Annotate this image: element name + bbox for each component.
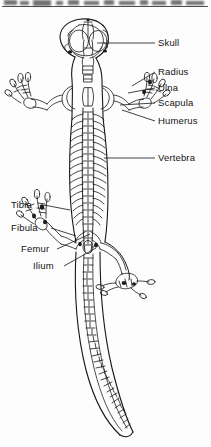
label-tibia: Tibia <box>11 200 32 210</box>
leader-scapula <box>120 103 155 105</box>
label-skull: Skull <box>158 38 179 48</box>
leader-femur <box>57 234 90 249</box>
leader-ilium <box>64 248 96 266</box>
leader-ulna <box>128 88 155 93</box>
leader-fibula <box>51 228 76 236</box>
label-radius: Radius <box>158 67 188 77</box>
label-ilium: Ilium <box>33 261 54 271</box>
leader-radius <box>132 72 155 86</box>
label-humerus: Humerus <box>158 116 198 126</box>
skeleton-figure: Skull Radius Ulna Scapula Humerus Verteb… <box>0 0 211 447</box>
leader-humerus <box>122 110 155 121</box>
label-fibula: Fibula <box>11 223 38 233</box>
label-vertebra: Vertebra <box>158 153 195 163</box>
leader-tibia <box>44 205 70 210</box>
label-scapula: Scapula <box>158 98 193 108</box>
label-ulna: Ulna <box>158 83 178 93</box>
label-femur: Femur <box>21 244 49 254</box>
